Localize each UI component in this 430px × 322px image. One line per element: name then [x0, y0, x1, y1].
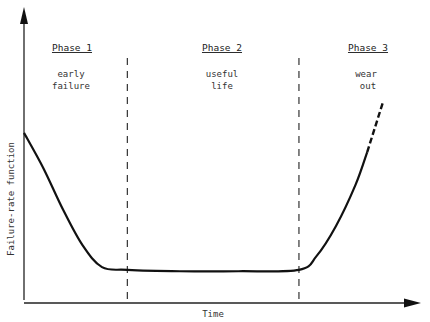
x-axis-label: Time: [202, 309, 224, 319]
phase-3-line2: out: [360, 81, 376, 91]
phase-1-title: Phase 1: [52, 42, 92, 53]
phase-2-title: Phase 2: [202, 42, 242, 53]
y-axis-label: Failure-rate function: [6, 142, 16, 256]
phase-1-line1: early: [57, 69, 85, 79]
phase-3-line1: wear: [355, 69, 377, 79]
phase-3-title: Phase 3: [348, 42, 388, 53]
failure-rate-curve-extrapolated: [367, 103, 383, 152]
phase-1-line2: failure: [52, 81, 90, 91]
y-axis-arrow-icon: [20, 7, 28, 24]
phase-2-line2: life: [211, 81, 233, 91]
phase-2-line1: useful: [206, 69, 239, 79]
failure-rate-curve: [24, 133, 367, 272]
x-axis-arrow-icon: [404, 299, 421, 308]
bathtub-curve-diagram: Phase 1 early failure Phase 2 useful lif…: [0, 0, 430, 322]
